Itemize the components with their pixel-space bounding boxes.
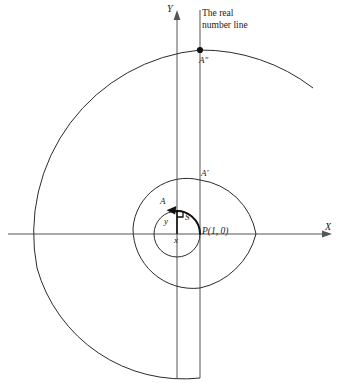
outer-spiral-lower-arc [37,268,200,379]
arc-length-label-S: S [185,212,190,222]
point-label-P: P(1, 0) [202,226,228,237]
point-label-A-double-prime: A″ [199,55,208,65]
point-label-A-prime: A′ [201,168,208,178]
annotation-line-1: The real [202,8,233,18]
point-A-double-prime-marker [197,47,203,53]
annotation-line-2: number line [202,20,248,30]
right-triangle-group [172,211,183,234]
middle-circle-arc [133,178,256,288]
real-number-line-annotation: The real number line [202,8,248,31]
y-axis-arrowhead [174,10,181,20]
spiral-real-number-line-diagram [0,0,340,383]
point-label-A: A [160,196,166,206]
x-axis-label: X [325,221,331,233]
y-axis-label: Y [167,3,173,15]
leg-label-y: y [164,216,168,226]
axes-group [8,10,332,378]
leg-label-x: x [174,235,178,245]
